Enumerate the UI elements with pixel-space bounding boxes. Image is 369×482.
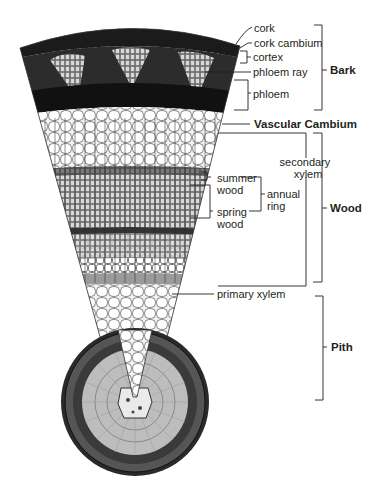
label-phloem-ray: phloem ray [253, 66, 307, 78]
label-annual-ring-line1: annual [267, 188, 300, 200]
label-spring-wood-line1: spring [217, 206, 247, 218]
label-cork-cambium: cork cambium [254, 37, 322, 49]
label-cork: cork [254, 22, 275, 34]
label-annual-ring-line2: ring [267, 200, 285, 212]
label-primary-xylem: primary xylem [217, 288, 285, 300]
label-summer-wood-line1: summer [217, 172, 257, 184]
group-label-pith: Pith [331, 341, 353, 353]
whole-stem-cross-section [61, 328, 209, 476]
group-label-wood: Wood [330, 202, 362, 214]
label-cortex: cortex [253, 51, 283, 63]
stem-cross-section-illustration [0, 0, 369, 482]
label-spring-wood-line2: wood [217, 218, 243, 230]
label-secondary-xylem-line1: secondary [270, 156, 340, 168]
label-summer-wood-line2: wood [217, 184, 243, 196]
group-label-bark: Bark [330, 64, 356, 76]
label-vascular-cambium: Vascular Cambium [254, 118, 357, 130]
label-secondary-xylem-line2: xylem [278, 168, 338, 180]
label-phloem: phloem [253, 88, 289, 100]
